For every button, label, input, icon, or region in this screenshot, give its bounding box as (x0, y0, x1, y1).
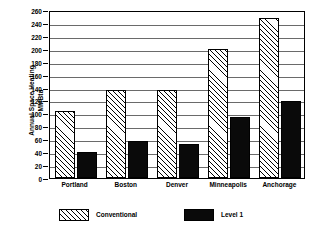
y-axis-tick-label: 220 (31, 33, 42, 40)
bar-chart: Annual Space Heating MMBtu 0204060801001… (0, 0, 320, 247)
y-axis-tick-mark (43, 179, 48, 180)
bar-boston-level-1 (128, 141, 148, 178)
x-axis-tick-label-denver: Denver (166, 181, 188, 188)
y-axis-tick-label: 120 (31, 98, 42, 105)
y-axis-tick-mark (43, 76, 48, 77)
y-axis-tick-mark (43, 166, 48, 167)
y-axis-tick-label: 40 (35, 150, 42, 157)
y-axis-tick-mark (43, 89, 48, 90)
bar-portland-level-1 (77, 152, 97, 178)
plot-area (49, 11, 305, 179)
y-axis-tick-mark (43, 24, 48, 25)
x-axis-tick-label-portland: Portland (61, 181, 87, 188)
y-axis-tick-mark (43, 37, 48, 38)
y-axis-tick-mark (43, 127, 48, 128)
x-axis-tick-label-boston: Boston (115, 181, 137, 188)
bar-minneapolis-level-1 (230, 117, 250, 178)
y-axis-tick-label: 80 (35, 124, 42, 131)
y-axis-tick-label: 140 (31, 85, 42, 92)
legend-label: Conventional (96, 211, 137, 219)
y-axis-tick-mark (43, 63, 48, 64)
y-axis-tick-label: 240 (31, 20, 42, 27)
y-axis-tick-label: 20 (35, 163, 42, 170)
legend-swatch-level-1 (184, 209, 214, 221)
y-axis-tick-mark (43, 50, 48, 51)
y-axis-tick-labels: 020406080100120140160180200220240260 (0, 0, 49, 190)
bar-boston-conventional (106, 90, 126, 178)
y-axis-tick-label: 60 (35, 137, 42, 144)
legend-item-conventional[interactable]: Conventional (59, 209, 137, 221)
y-axis-tick-mark (43, 140, 48, 141)
legend-swatch-conventional (59, 209, 89, 221)
y-axis-tick-mark (43, 101, 48, 102)
chart-legend: ConventionalLevel 1 (49, 209, 305, 231)
y-axis-tick-label: 200 (31, 46, 42, 53)
y-axis-tick-label: 100 (31, 111, 42, 118)
x-axis-tick-labels: PortlandBostonDenverMinneapolisAnchorage (49, 181, 305, 195)
y-axis-tick-label: 0 (38, 176, 42, 183)
y-axis-tick-mark (43, 153, 48, 154)
bar-denver-level-1 (179, 144, 199, 178)
y-axis-tick-mark (43, 11, 48, 12)
bar-denver-conventional (157, 90, 177, 178)
y-axis-tick-label: 180 (31, 59, 42, 66)
legend-label: Level 1 (221, 211, 243, 219)
x-axis-tick-label-minneapolis: Minneapolis (209, 181, 247, 188)
y-axis-tick-label: 260 (31, 8, 42, 15)
bar-minneapolis-conventional (208, 49, 228, 178)
bar-anchorage-level-1 (281, 101, 301, 178)
legend-item-level-1[interactable]: Level 1 (184, 209, 243, 221)
x-axis-tick-label-anchorage: Anchorage (262, 181, 296, 188)
y-axis-tick-mark (43, 114, 48, 115)
bar-anchorage-conventional (259, 18, 279, 178)
y-axis-tick-label: 160 (31, 72, 42, 79)
bar-series-container (50, 12, 304, 178)
bar-portland-conventional (55, 111, 75, 178)
